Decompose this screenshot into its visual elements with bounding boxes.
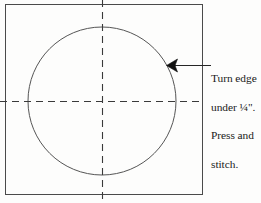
callout-line-3: Press and (211, 128, 261, 142)
figure-canvas: Turn edge under ¼". Press and stitch. (0, 0, 261, 203)
instruction-callout: Turn edge under ¼". Press and stitch. (211, 57, 261, 186)
callout-line-2: under ¼". (211, 100, 261, 114)
callout-line-1: Turn edge (211, 71, 261, 85)
callout-line-4: stitch. (211, 157, 261, 171)
fabric-square (6, 5, 203, 195)
